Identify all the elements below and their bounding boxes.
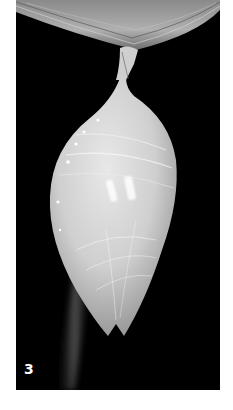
chrysalis-body (50, 78, 177, 336)
figure-number-label: 3 (24, 362, 34, 376)
chrysalis-photo (16, 0, 220, 390)
branch (16, 0, 220, 50)
photo-frame: 3 (16, 0, 220, 390)
silk-stem (116, 46, 138, 80)
